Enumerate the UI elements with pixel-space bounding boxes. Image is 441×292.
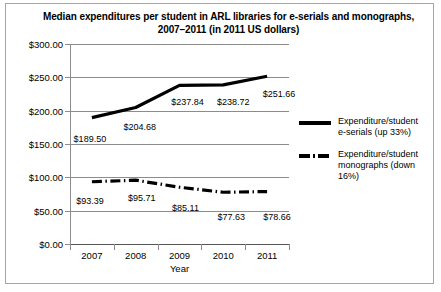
legend-item-e-serials: Expenditure/student e-serials (up 33%) [299,116,435,140]
x-axis-tick [158,244,159,250]
x-axis-tick [245,244,246,250]
x-axis-line [70,244,290,245]
x-axis-tick-label: 2010 [203,250,243,261]
chart-title-line2: 2007–2011 (in 2011 US dollars) [36,23,421,36]
data-label: $204.68 [123,122,156,132]
x-axis-tick [114,244,115,250]
data-label: $78.66 [263,212,291,222]
y-axis-tick-label: $300.00 [29,39,63,50]
x-axis-tick-label: 2007 [72,250,112,261]
legend-item-monographs: Expenditure/student monographs (down 16%… [299,149,435,182]
data-label: $237.84 [171,97,204,107]
data-label: $77.63 [218,212,246,222]
x-axis-tick-label: 2008 [116,250,156,261]
x-axis-tick [70,244,71,250]
chart-title: Median expenditures per student in ARL l… [36,10,421,36]
data-label: $95.71 [128,193,156,203]
x-axis-tick [201,244,202,250]
y-axis-tick-label: $50.00 [34,205,63,216]
plot-area: $0.00$50.00$100.00$150.00$200.00$250.00$… [70,44,289,244]
y-axis-tick-label: $150.00 [29,139,63,150]
x-axis-tick [289,244,290,250]
series-lines [70,44,289,244]
chart-frame: Median expenditures per student in ARL l… [5,3,434,284]
series-line-2 [92,180,267,192]
chart-legend: Expenditure/student e-serials (up 33%) E… [299,116,435,191]
legend-label-e-serials-line1: Expenditure/student [338,116,435,127]
legend-label-monographs-line1: Expenditure/student [338,149,435,160]
legend-swatch-solid-icon [299,121,331,125]
data-label: $85.11 [172,203,199,213]
chart-title-line1: Median expenditures per student in ARL l… [43,11,414,22]
y-axis-tick-label: $0.00 [39,239,63,250]
x-axis-tick-label: 2009 [160,250,200,261]
data-label: $189.50 [74,134,107,144]
chart-page: Median expenditures per student in ARL l… [0,0,441,292]
data-label: $93.39 [76,196,104,206]
y-axis-tick-label: $250.00 [29,72,63,83]
x-axis-tick-label: 2011 [247,250,287,261]
data-label: $251.66 [263,89,296,99]
y-axis-tick-label: $100.00 [29,172,63,183]
legend-label-e-serials-line2: e-serials (up 33%) [338,127,435,138]
x-axis-title: Year [70,263,289,274]
y-axis-tick-label: $200.00 [29,105,63,116]
legend-swatch-dashdot-icon [299,154,331,158]
data-label: $238.72 [217,97,250,107]
legend-label-monographs-line2: monographs (down 16%) [338,160,435,182]
